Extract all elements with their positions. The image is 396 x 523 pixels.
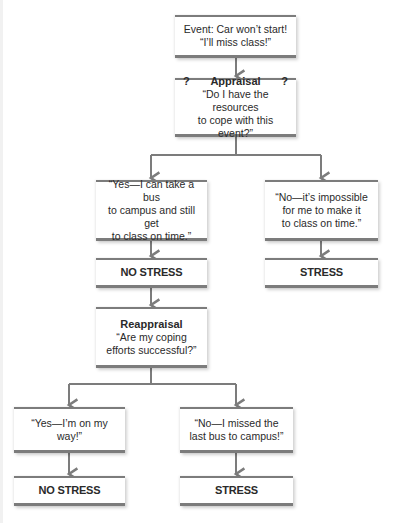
reappraisal-node: Reappraisal “Are my coping efforts succe… (96, 307, 207, 368)
no1-line-1: “No—it’s impossible (275, 191, 368, 204)
no-stress-label-1: NO STRESS (121, 266, 183, 279)
stress-outcome-2: STRESS (180, 476, 293, 506)
stress-label-1: STRESS (300, 266, 343, 279)
edge-appraisal-split (151, 137, 321, 155)
stress-outcome-1: STRESS (265, 258, 378, 288)
reappraisal-line-2: efforts successful?” (106, 344, 196, 357)
reappraisal-line-1: “Are my coping (116, 331, 187, 344)
appraisal-line-2: to cope with this event?” (179, 114, 292, 140)
event-line-1: Event: Car won’t start! (184, 23, 287, 36)
no-stress-outcome-1: NO STRESS (96, 258, 207, 288)
no-response-node-2: “No—I missed the last bus to campus!” (180, 407, 293, 453)
yes1-line-3: to class on time.” (112, 230, 191, 243)
event-line-2: “I’ll miss class!” (200, 36, 271, 49)
appraisal-heading: ? Appraisal ? (179, 75, 292, 88)
question-mark-left: ? (183, 75, 190, 88)
no-response-node-1: “No—it’s impossible for me to make it to… (265, 180, 378, 241)
event-node: Event: Car won’t start! “I’ll miss class… (175, 15, 296, 58)
appraisal-title: Appraisal (190, 75, 282, 88)
yes2-line-1: “Yes—I’m on my way!” (18, 417, 121, 443)
no-stress-outcome-2: NO STRESS (14, 476, 125, 506)
reappraisal-title: Reappraisal (120, 318, 182, 331)
no1-line-3: to class on time.” (282, 217, 361, 230)
yes1-line-2: to campus and still get (100, 204, 203, 230)
appraisal-line-1: “Do I have the resources (179, 88, 292, 114)
no1-line-2: for me to make it (282, 204, 360, 217)
appraisal-node: ? Appraisal ? “Do I have the resources t… (175, 78, 296, 137)
yes-response-node-1: “Yes—I can take a bus to campus and stil… (96, 180, 207, 241)
stress-label-2: STRESS (215, 484, 258, 497)
question-mark-right: ? (281, 75, 288, 88)
no-stress-label-2: NO STRESS (39, 484, 101, 497)
yes1-line-1: “Yes—I can take a bus (100, 178, 203, 204)
no2-line-1: “No—I missed the (194, 417, 278, 430)
edge-reappraisal-split (69, 368, 236, 384)
yes-response-node-2: “Yes—I’m on my way!” (14, 407, 125, 453)
no2-line-2: last bus to campus!” (190, 430, 284, 443)
